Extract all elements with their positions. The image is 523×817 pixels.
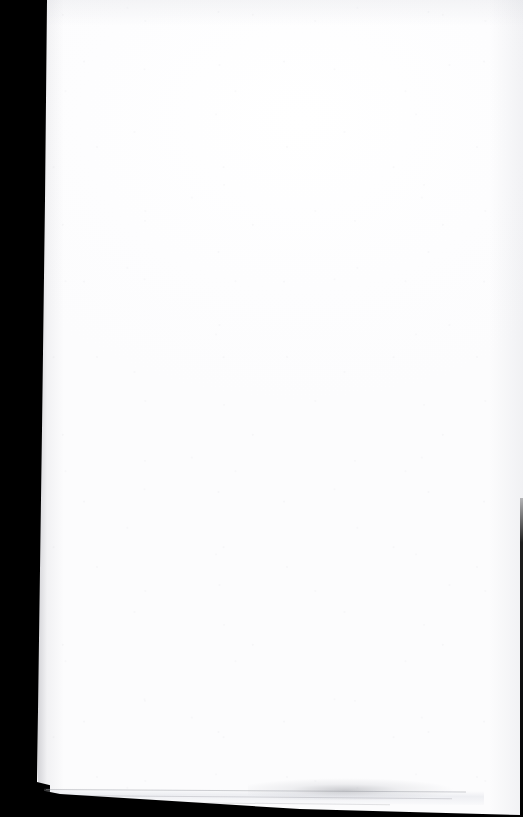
scanned-page xyxy=(0,0,523,817)
paper-grain-texture xyxy=(40,0,523,817)
right-edge-vignette xyxy=(489,0,523,817)
top-edge-haze xyxy=(46,0,523,26)
bottom-smudge-mark xyxy=(248,778,463,800)
